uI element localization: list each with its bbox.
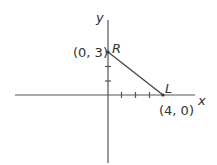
point-r-coords: (0, 3) [73,45,108,60]
x-axis-label: x [197,93,206,108]
coordinate-diagram: y x (0, 3) R L (4, 0) [0,0,217,165]
y-axis-label: y [95,10,104,25]
point-l-coords: (4, 0) [159,103,194,118]
segment-rl [108,52,163,95]
point-l-name: L [165,81,172,96]
point-r-name: R [112,41,121,56]
